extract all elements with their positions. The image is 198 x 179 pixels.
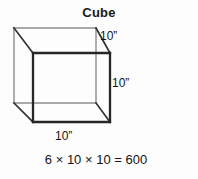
cube-front-face (33, 53, 110, 122)
cube-back-face (14, 28, 96, 103)
diagonal-top-left (14, 28, 33, 53)
diagonal-bottom-right (96, 103, 110, 122)
diagonal-bottom-left (14, 103, 33, 122)
cube-figure: Cube 10” 10” 10” 6 × 10 × 10 = 600 (0, 0, 198, 179)
surface-area-equation: 6 × 10 × 10 = 600 (0, 152, 198, 167)
dimension-label-depth: 10” (100, 29, 117, 43)
dimension-label-height: 10” (112, 76, 129, 90)
dimension-label-width: 10” (55, 129, 72, 143)
